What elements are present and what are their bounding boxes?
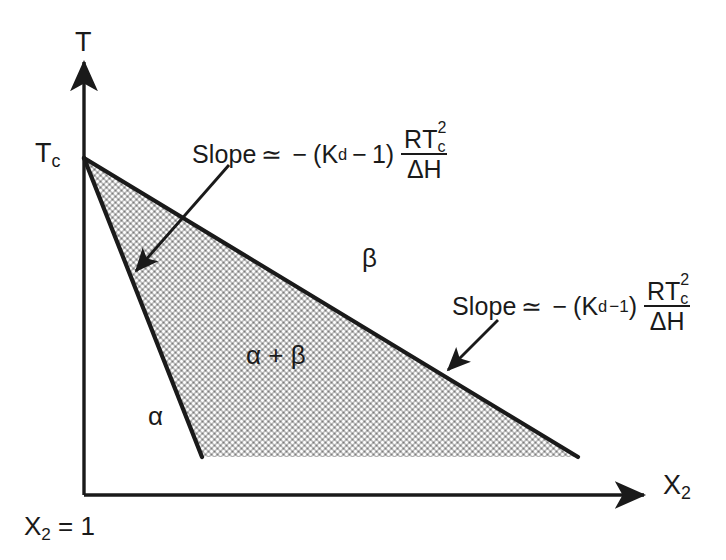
slope-formula-solidus: Slope ≃ − ( Kd − 1 ) RT2c ΔH [192,126,447,183]
kd-base-1: K [321,142,338,167]
tc-label: Tc [35,140,60,171]
region-label-alpha: α [148,403,163,429]
kd-base-2: K [581,294,598,319]
fraction-denominator-1: ΔH [404,155,445,182]
approx-sign-2: ≃ [521,294,542,319]
approx-sign-1: ≃ [261,142,282,167]
fraction-1: RT2c ΔH [401,126,447,183]
close-paren-2: ) [629,294,637,319]
fraction-2: RT2c ΔH [644,278,690,335]
kd-sub-2: d [598,298,607,315]
inverse-exponent-2: −1 [609,298,628,315]
kd-sub-1: d [338,146,347,163]
x-axis-label: X2 [663,472,691,503]
slope-word-1: Slope [192,142,256,167]
minus-sign-1: − [292,142,307,167]
y-axis-label: T [75,29,92,56]
fraction-numerator-2: RT2c [644,278,690,307]
fraction-numerator-1: RT2c [401,126,447,155]
inner-minus-1: − [352,142,367,167]
minus-sign-2: − [552,294,567,319]
region-label-beta: β [362,245,377,271]
origin-composition-note: X2 = 1 [24,513,95,543]
open-paren-1: ( [313,142,321,167]
fraction-denominator-2: ΔH [647,307,688,334]
slope-formula-liquidus: Slope ≃ − ( Kd−1 ) RT2c ΔH [452,278,690,335]
close-paren-1: ) [386,142,394,167]
slope-word-2: Slope [452,294,516,319]
one-1: 1 [372,142,386,167]
open-paren-2: ( [573,294,581,319]
region-label-alpha-beta: α + β [246,342,306,368]
phase-diagram-figure: T Tc X2 X2 = 1 α α + β β Slope ≃ − ( Kd … [0,0,726,560]
